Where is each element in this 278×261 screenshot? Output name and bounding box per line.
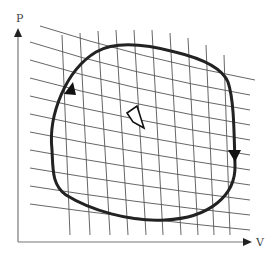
highlighted-cell — [127, 106, 144, 128]
arrow-down-icon — [228, 150, 241, 162]
x-axis-label: V — [255, 236, 265, 249]
y-axis-arrow-icon — [14, 28, 22, 37]
y-axis-label: P — [16, 12, 24, 25]
pv-diagram: P V — [0, 0, 278, 261]
x-axis-arrow-icon — [243, 238, 252, 246]
